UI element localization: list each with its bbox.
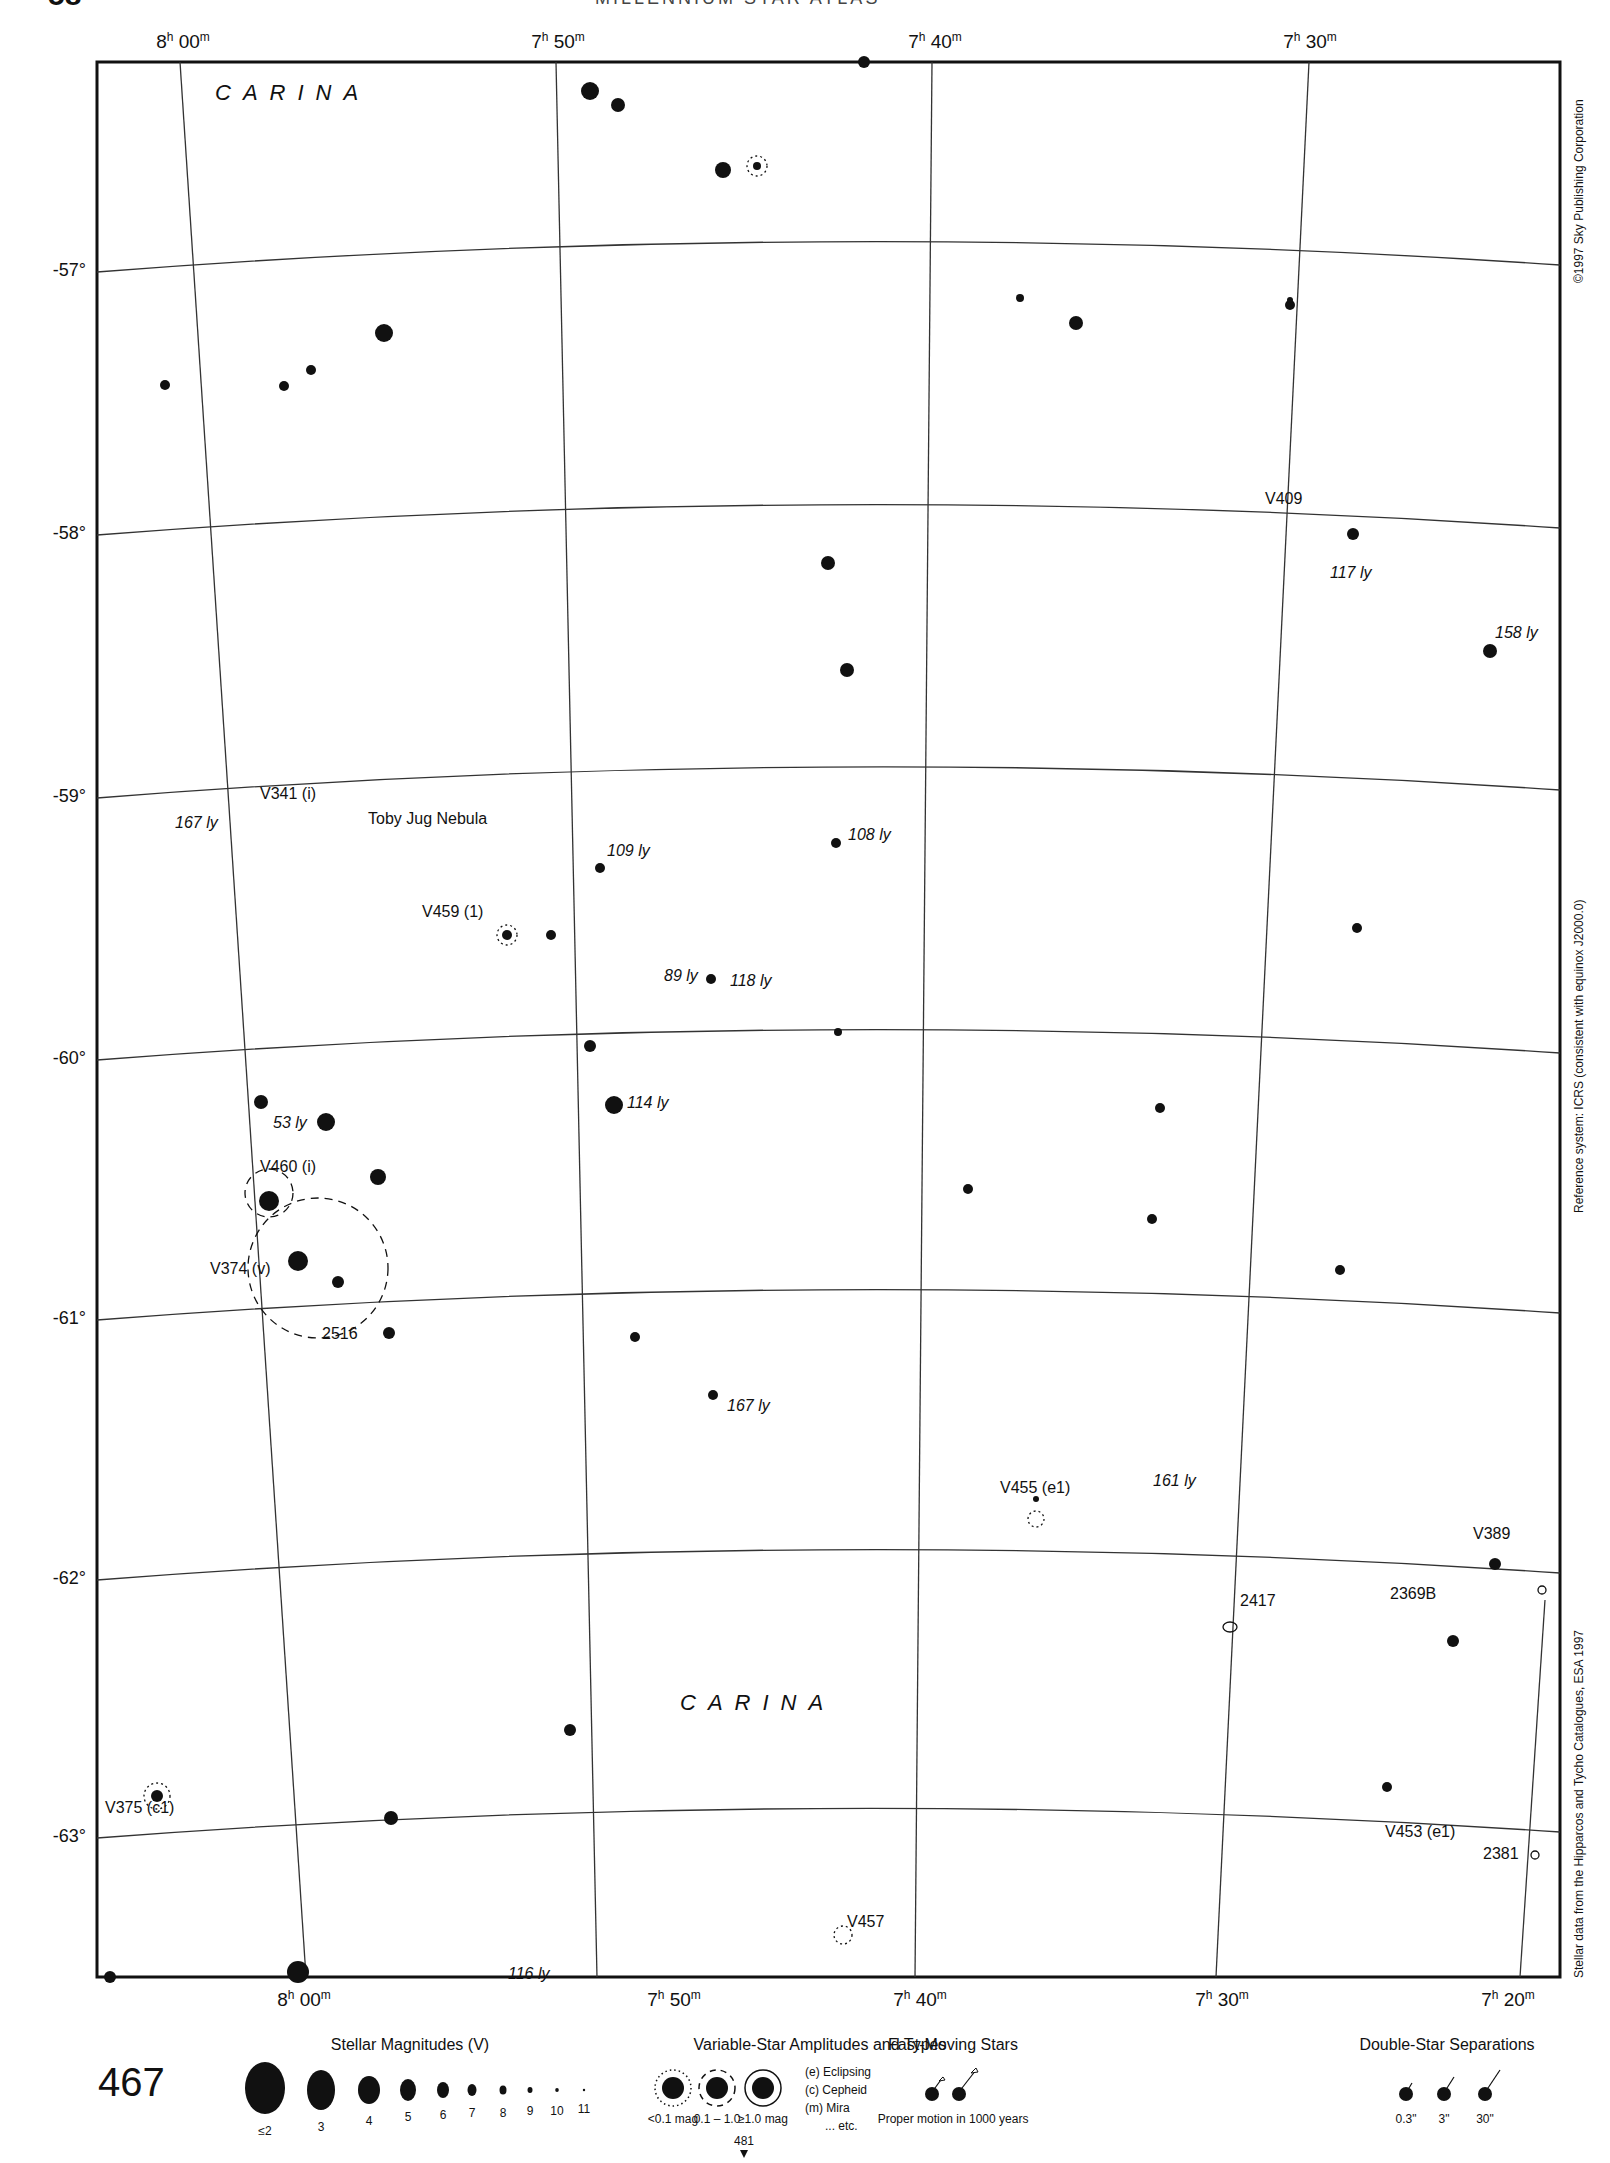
label-53ly: 53 ly bbox=[273, 1114, 307, 1132]
dec-label-63: -63° bbox=[6, 1826, 86, 1847]
ra-label-bottom-7h30: 7h 30m bbox=[1195, 1988, 1249, 2011]
label-v455: V455 (e1) bbox=[1000, 1479, 1070, 1497]
legend-magnitude-dots bbox=[245, 2062, 585, 2114]
legend-double-30: 30" bbox=[1476, 2112, 1494, 2126]
adjacent-chart-link[interactable]: 481 bbox=[734, 2134, 754, 2148]
label-114ly: 114 ly bbox=[627, 1094, 669, 1112]
legend-magnitudes-title: Stellar Magnitudes (V) bbox=[331, 2036, 489, 2054]
label-108ly: 108 ly bbox=[848, 826, 891, 844]
label-89ly: 89 ly bbox=[664, 967, 698, 985]
galaxy-2417 bbox=[1223, 1622, 1237, 1632]
label-167ly-left: 167 ly bbox=[175, 814, 218, 832]
label-v375: V375 (c1) bbox=[105, 1799, 174, 1817]
label-v460: V460 (i) bbox=[260, 1158, 316, 1176]
ra-label-bottom-7h20: 7h 20m bbox=[1481, 1988, 1535, 2011]
dec-label-59: -59° bbox=[6, 786, 86, 807]
legend-mag-8: 8 bbox=[500, 2106, 507, 2120]
data-source-text: Stellar data from the Hipparcos and Tych… bbox=[1572, 1630, 1586, 1978]
label-v453: V453 (e1) bbox=[1385, 1823, 1455, 1841]
legend-mag-6: 6 bbox=[440, 2108, 447, 2122]
legend-double-3: 3" bbox=[1439, 2112, 1450, 2126]
dec-label-61: -61° bbox=[6, 1308, 86, 1329]
label-109ly: 109 ly bbox=[607, 842, 650, 860]
label-ngc-2516: 2516 bbox=[322, 1325, 358, 1343]
legend-mag-10: 10 bbox=[550, 2104, 563, 2118]
legend-fast-moving-title: Fast-Moving Stars bbox=[888, 2036, 1018, 2054]
dec-label-60: -60° bbox=[6, 1048, 86, 1069]
legend-var-type-eclipsing: (e) Eclipsing bbox=[805, 2065, 871, 2079]
constellation-label-carina-bottom: CARINA bbox=[680, 1690, 835, 1716]
label-v457: V457 bbox=[847, 1913, 884, 1931]
label-v374: V374 (v) bbox=[210, 1260, 270, 1278]
label-167ly-center: 167 ly bbox=[727, 1397, 770, 1415]
constellation-label-carina-top: CARINA bbox=[215, 80, 370, 106]
legend-double-star-symbols bbox=[1399, 2070, 1500, 2101]
legend-mag-11: 11 bbox=[578, 2102, 590, 2116]
dec-label-62: -62° bbox=[6, 1568, 86, 1589]
legend-var-type-etc: ... etc. bbox=[825, 2119, 858, 2133]
reference-system-text: Reference system: ICRS (consistent with … bbox=[1572, 900, 1586, 1213]
ra-label-bottom-8h00: 8h 00m bbox=[277, 1988, 331, 2011]
label-ngc-2369b: 2369B bbox=[1390, 1585, 1436, 1603]
legend-mag-7: 7 bbox=[469, 2106, 476, 2120]
ra-gridlines bbox=[180, 62, 1545, 1977]
legend-mag-4: 4 bbox=[366, 2114, 373, 2128]
legend-mag-3: 3 bbox=[318, 2120, 325, 2134]
star-chart bbox=[0, 0, 1610, 2163]
label-v341: V341 (i) bbox=[260, 785, 316, 803]
dec-gridlines bbox=[97, 242, 1560, 1838]
adjacent-chart-arrow-icon bbox=[740, 2150, 748, 2158]
dec-label-58: -58° bbox=[6, 523, 86, 544]
label-v459: V459 (1) bbox=[422, 903, 483, 921]
ra-label-bottom-7h40: 7h 40m bbox=[893, 1988, 947, 2011]
legend-var-large: ≥1.0 mag bbox=[738, 2112, 788, 2126]
label-v409: V409 bbox=[1265, 490, 1302, 508]
label-116ly: 116 ly bbox=[508, 1965, 550, 1983]
legend-mag-2: ≤2 bbox=[258, 2124, 271, 2138]
label-118ly: 118 ly bbox=[730, 972, 772, 990]
cluster-2381 bbox=[1531, 1851, 1539, 1859]
dec-label-57: -57° bbox=[6, 260, 86, 281]
legend-fast-moving-symbols bbox=[925, 2068, 978, 2101]
legend-var-type-cepheid: (c) Cepheid bbox=[805, 2083, 867, 2097]
label-toby-jug-nebula: Toby Jug Nebula bbox=[368, 810, 487, 828]
legend-var-medium: 0.1 – 1.0 bbox=[694, 2112, 741, 2126]
legend-mag-9: 9 bbox=[527, 2104, 534, 2118]
ra-label-top-8h00: 8h 00m bbox=[156, 30, 210, 53]
label-ngc-2381: 2381 bbox=[1483, 1845, 1519, 1863]
copyright-text: ©1997 Sky Publishing Corporation bbox=[1572, 99, 1586, 283]
label-158ly: 158 ly bbox=[1495, 624, 1538, 642]
chart-number: 467 bbox=[98, 2060, 165, 2105]
ra-label-top-7h30: 7h 30m bbox=[1283, 30, 1337, 53]
legend-var-small: <0.1 mag bbox=[648, 2112, 698, 2126]
legend-double-0-3: 0.3" bbox=[1396, 2112, 1417, 2126]
cluster-2369b bbox=[1538, 1586, 1546, 1594]
legend-var-type-mira: (m) Mira bbox=[805, 2101, 850, 2115]
legend-variable-symbols bbox=[655, 2070, 781, 2106]
legend-fast-moving-caption: Proper motion in 1000 years bbox=[878, 2112, 1029, 2126]
label-161ly: 161 ly bbox=[1153, 1472, 1196, 1490]
label-ngc-2417: 2417 bbox=[1240, 1592, 1276, 1610]
legend-mag-5: 5 bbox=[405, 2110, 412, 2124]
ra-label-top-7h40: 7h 40m bbox=[908, 30, 962, 53]
label-117ly: 117 ly bbox=[1330, 564, 1372, 582]
legend-doubles-title: Double-Star Separations bbox=[1359, 2036, 1534, 2054]
ra-label-top-7h50: 7h 50m bbox=[531, 30, 585, 53]
label-v389: V389 bbox=[1473, 1525, 1510, 1543]
ra-label-bottom-7h50: 7h 50m bbox=[647, 1988, 701, 2011]
